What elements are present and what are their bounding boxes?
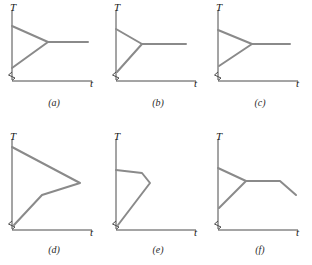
curve-lower-branch (219, 44, 252, 66)
curve-lower-branch (117, 44, 142, 72)
panel-e: T t (e) (106, 133, 210, 265)
panel-caption-d: (d) (2, 245, 106, 255)
figure-container: T t (a) T t (b) T t (c) (0, 0, 312, 265)
panel-caption-f: (f) (208, 245, 312, 255)
panel-f: T t (f) (208, 133, 312, 265)
axis-label-t: t (296, 227, 299, 238)
axis-label-t: t (194, 227, 197, 238)
curve-wedge (116, 170, 150, 225)
axis-label-T: T (114, 2, 120, 13)
panel-caption-c: (c) (208, 98, 312, 108)
axis-label-T: T (10, 2, 16, 13)
axis-label-t: t (90, 227, 93, 238)
axis-label-T: T (10, 131, 16, 142)
axis-label-t: t (194, 78, 197, 89)
curve-upper-branch (218, 168, 296, 195)
axis-label-T: T (114, 131, 120, 142)
axis-label-t: t (90, 78, 93, 89)
panel-d: T t (d) (2, 133, 106, 265)
panel-c: T t (c) (208, 2, 312, 134)
axis-label-T: T (216, 131, 222, 142)
curve-lower-branch (12, 42, 48, 68)
panel-b: T t (b) (106, 2, 210, 134)
curve-upper-branch (12, 26, 88, 42)
curve-wedge (12, 147, 80, 225)
panel-a: T t (a) (2, 2, 106, 134)
curve-lower-branch (219, 181, 246, 208)
curve-upper-branch (218, 30, 290, 44)
axis-label-T: T (216, 2, 222, 13)
curve-upper-branch (116, 29, 186, 44)
panel-caption-b: (b) (106, 98, 210, 108)
axis-label-t: t (296, 78, 299, 89)
panel-caption-a: (a) (2, 98, 106, 108)
panel-caption-e: (e) (106, 245, 210, 255)
